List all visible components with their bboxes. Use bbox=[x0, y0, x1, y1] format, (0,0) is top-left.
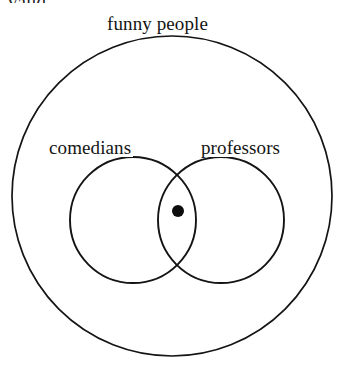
set-circle-professors bbox=[158, 157, 284, 283]
set-label-comedians: comedians bbox=[47, 138, 133, 157]
universe-circle-funny-people bbox=[12, 36, 332, 356]
individual-dot-marker bbox=[172, 205, 184, 217]
diagram-canvas bbox=[0, 0, 346, 371]
universe-label-funny-people: funny people bbox=[104, 14, 211, 33]
venn-diagram-figure: valid. funny people comedians professors bbox=[0, 0, 346, 371]
set-label-professors: professors bbox=[199, 138, 282, 157]
